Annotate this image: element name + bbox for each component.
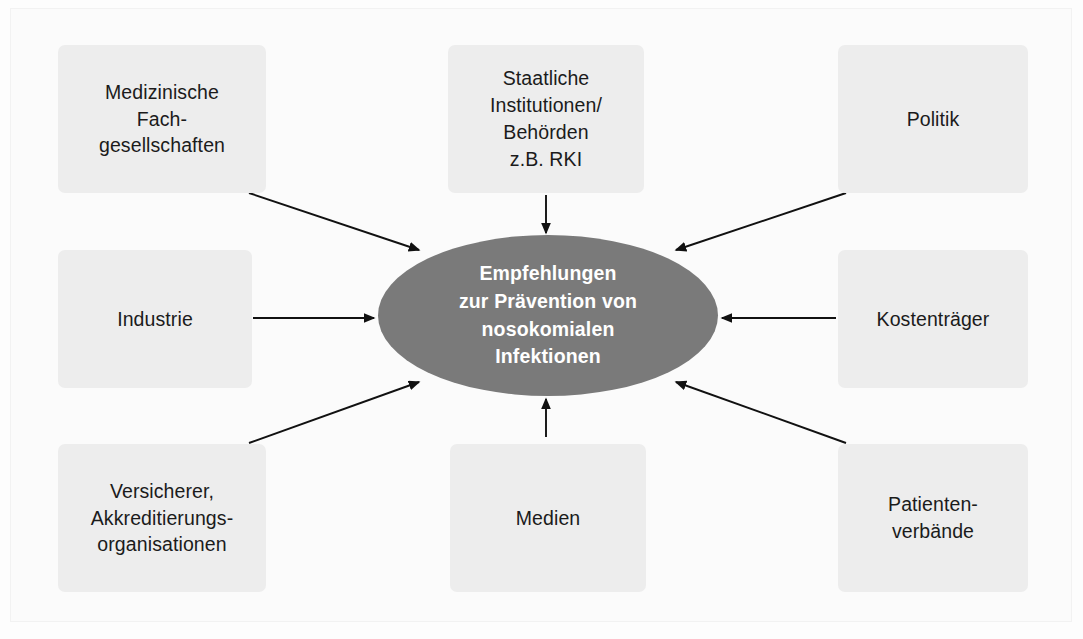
node-versicherer-akkreditierungsorganisationen[interactable]: Versicherer, Akkreditierungs- organisati… xyxy=(58,444,266,592)
node-label: Medien xyxy=(508,505,589,532)
arrow-medizinische-fachgesellschaften xyxy=(249,193,419,250)
diagram-canvas: Medizinische Fach- gesellschaften Staatl… xyxy=(0,0,1083,639)
node-label: Kostenträger xyxy=(869,306,998,333)
node-kostentraeger[interactable]: Kostenträger xyxy=(838,250,1028,388)
node-label: Industrie xyxy=(109,306,201,333)
node-medizinische-fachgesellschaften[interactable]: Medizinische Fach- gesellschaften xyxy=(58,45,266,193)
arrow-politik xyxy=(676,193,846,250)
node-label: Patienten- verbände xyxy=(880,491,986,545)
node-label: Versicherer, Akkreditierungs- organisati… xyxy=(83,478,242,559)
node-medien[interactable]: Medien xyxy=(450,444,646,592)
node-label: Politik xyxy=(899,106,968,133)
node-label: Medizinische Fach- gesellschaften xyxy=(91,79,233,160)
center-node-recommendations[interactable]: Empfehlungen zur Prävention von nosokomi… xyxy=(378,235,718,396)
arrow-versicherer xyxy=(249,382,419,443)
node-label: Staatliche Institutionen/ Behörden z.B. … xyxy=(482,65,610,173)
node-industrie[interactable]: Industrie xyxy=(58,250,252,388)
node-politik[interactable]: Politik xyxy=(838,45,1028,193)
node-patientenverbaende[interactable]: Patienten- verbände xyxy=(838,444,1028,592)
center-node-label: Empfehlungen zur Prävention von nosokomi… xyxy=(451,260,645,371)
arrow-patientenverbaende xyxy=(676,382,846,443)
node-staatliche-institutionen[interactable]: Staatliche Institutionen/ Behörden z.B. … xyxy=(448,45,644,193)
